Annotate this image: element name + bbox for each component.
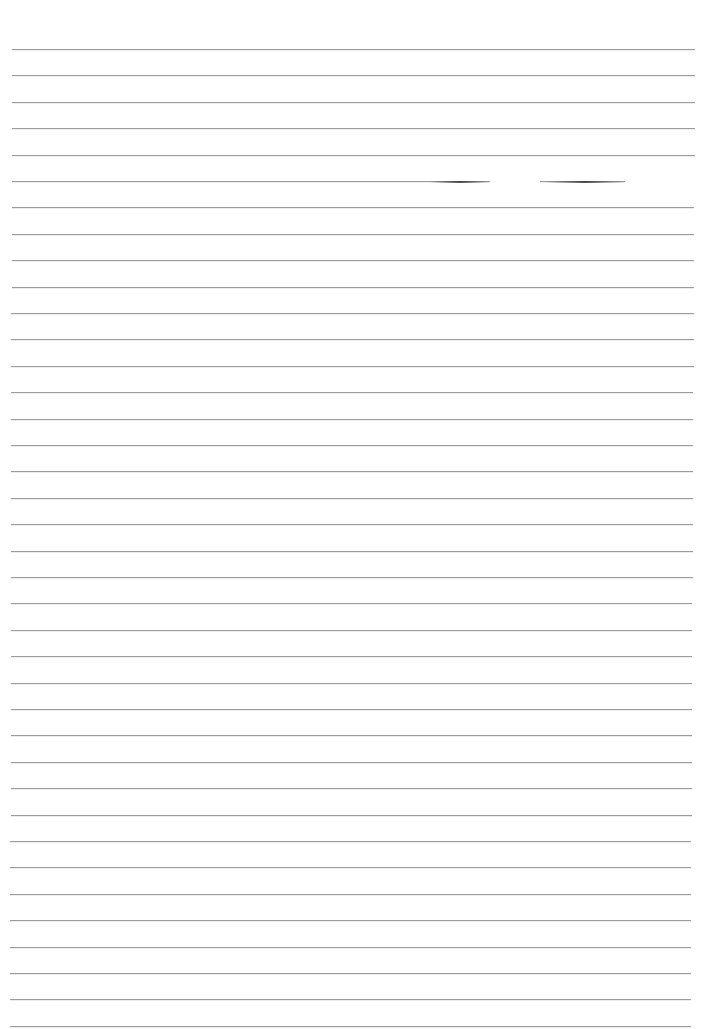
ruled-line	[11, 419, 693, 420]
lined-paper-sheet	[0, 0, 705, 1029]
ruled-line	[12, 128, 695, 129]
ruled-line	[11, 709, 692, 710]
ruled-line	[10, 841, 691, 842]
ruled-line	[11, 630, 692, 631]
ruled-line	[11, 471, 693, 472]
ruled-line	[12, 75, 695, 76]
ruled-line	[11, 339, 694, 340]
ruled-line	[10, 999, 691, 1000]
ruled-line	[10, 947, 691, 948]
ruled-line	[11, 656, 692, 657]
line-gap	[490, 180, 540, 183]
ruled-line	[12, 287, 694, 288]
ruled-line	[11, 366, 694, 367]
dark-line-segment	[545, 181, 625, 183]
ruled-line	[11, 683, 692, 684]
dark-line-segment	[430, 181, 490, 183]
ruled-line	[12, 234, 694, 235]
ruled-line	[11, 498, 693, 499]
ruled-line	[11, 445, 693, 446]
ruled-line	[12, 260, 694, 261]
ruled-line	[12, 102, 695, 103]
line-gap	[625, 180, 705, 183]
ruled-line	[12, 207, 694, 208]
ruled-line	[11, 603, 692, 604]
ruled-line	[12, 49, 695, 50]
ruled-line	[11, 392, 693, 393]
ruled-line	[11, 524, 693, 525]
ruled-line	[11, 313, 694, 314]
ruled-line	[10, 894, 691, 895]
ruled-line	[11, 551, 693, 552]
ruled-line	[11, 577, 693, 578]
ruled-line	[10, 920, 691, 921]
ruled-line	[10, 973, 691, 974]
ruled-line	[10, 1026, 691, 1027]
ruled-line	[11, 788, 692, 789]
ruled-line	[11, 762, 692, 763]
ruled-line	[11, 815, 692, 816]
ruled-line	[12, 155, 695, 156]
ruled-line	[10, 867, 691, 868]
ruled-line	[11, 735, 692, 736]
